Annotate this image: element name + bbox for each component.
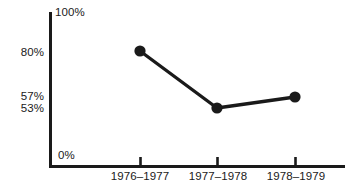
x-axis-label-1978-1979: 1978–1979 — [256, 170, 336, 182]
line-chart: 100% 80% 57% 53% 0% 1976–1977 1977–1978 … — [0, 0, 360, 193]
data-point-1976-1977 — [134, 45, 145, 56]
y-axis-label-57: 57% — [0, 90, 44, 102]
y-axis-label-100: 100% — [55, 6, 85, 18]
x-axis-label-1976-1977: 1976–1977 — [100, 170, 180, 182]
y-axis-label-80: 80% — [0, 46, 44, 58]
y-axis-label-53: 53% — [0, 102, 44, 114]
data-point-1977-1978 — [211, 102, 222, 113]
data-point-1978-1979 — [289, 91, 300, 102]
chart-plot-area — [0, 0, 360, 193]
data-line-series — [140, 51, 295, 108]
x-axis-label-1977-1978: 1977–1978 — [178, 170, 258, 182]
y-axis-label-0: 0% — [58, 149, 75, 161]
